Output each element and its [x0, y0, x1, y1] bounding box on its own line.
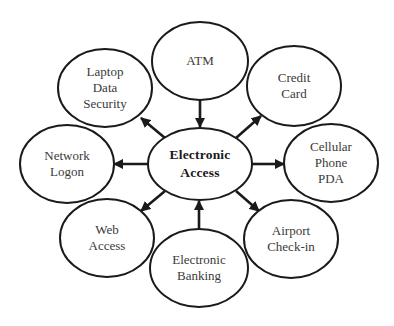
node-label-line: Access: [89, 238, 126, 254]
node-label-line: PDA: [310, 171, 352, 187]
node-label-line: Web: [89, 222, 126, 238]
node-label-line: Access: [170, 164, 231, 182]
arrow-electronic-access-to-airport-check-in: [236, 191, 259, 211]
node-label-line: ATM: [186, 53, 213, 69]
node-label-electronic-banking: ElectronicBanking: [172, 252, 225, 284]
node-label-line: Laptop: [83, 64, 126, 80]
arrow-electronic-access-to-credit-card: [236, 116, 261, 138]
arrow-electronic-access-to-web-access: [141, 191, 165, 211]
node-label-laptop-data-security: LaptopDataSecurity: [83, 64, 126, 112]
node-label-line: Banking: [172, 268, 225, 284]
node-label-network-logon: NetworkLogon: [44, 148, 90, 180]
arrow-electronic-access-to-laptop-data-security: [141, 118, 165, 138]
node-label-cellular-phone-pda: CellularPhonePDA: [310, 139, 352, 187]
node-label-line: Network: [44, 148, 90, 164]
node-label-line: Security: [83, 96, 126, 112]
node-label-line: Card: [278, 86, 311, 102]
node-label-line: Data: [83, 80, 126, 96]
node-label-line: Cellular: [310, 139, 352, 155]
node-label-electronic-access: ElectronicAccess: [170, 146, 231, 182]
node-label-credit-card: CreditCard: [278, 70, 311, 102]
node-label-airport-check-in: AirportCheck-in: [267, 223, 315, 255]
node-label-line: Phone: [310, 155, 352, 171]
node-label-line: Electronic: [170, 146, 231, 164]
node-label-line: Airport: [267, 223, 315, 239]
node-label-atm: ATM: [186, 53, 213, 69]
node-label-line: Logon: [44, 164, 90, 180]
node-label-line: Credit: [278, 70, 311, 86]
node-label-line: Electronic: [172, 252, 225, 268]
node-label-web-access: WebAccess: [89, 222, 126, 254]
node-label-line: Check-in: [267, 239, 315, 255]
